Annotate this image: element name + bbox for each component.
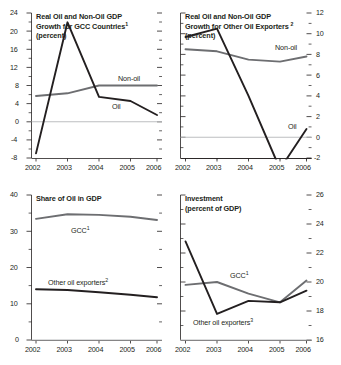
ytick-label: 26 (316, 190, 324, 199)
ytick-label: 4 (316, 91, 320, 100)
ytick-label: 12 (10, 63, 18, 72)
xtick-label: 2003 (57, 163, 72, 172)
ytick-label: 24 (316, 219, 324, 228)
series-label-other-oil-exporters: Other oil exporters2 (48, 278, 108, 287)
chart-panel-top-left: Real Oil and Non-Oil GDP Growth for GCC … (0, 0, 175, 182)
ytick-label: 2 (316, 112, 320, 121)
series-line-other-oil-exporters (36, 289, 157, 297)
ytick-label: 10 (316, 29, 324, 38)
series-label-other-oil-exporters: Other oil exporters3 (193, 318, 253, 327)
xtick-label: 2002 (25, 345, 40, 354)
series-label-non-oil: Non-oil (118, 74, 140, 83)
series-label-non-oil: Non-oil (275, 43, 297, 52)
xtick-label: 2004 (238, 163, 253, 172)
chart-panel-top-right: Real Oil and Non-Oil GDP Growth for Othe… (175, 0, 341, 182)
chart-panel-bottom-right: Investment (percent of GDP) (175, 182, 341, 365)
series-label-gcc: GCC1 (71, 226, 89, 235)
ytick-label: 24 (10, 8, 18, 17)
ytick-label: -8 (11, 153, 17, 162)
ytick-label: 0 (15, 335, 19, 344)
series-label-other-text: Other oil exporters (48, 278, 105, 287)
ytick-label: 20 (10, 27, 18, 36)
ytick-label: 6 (316, 71, 320, 80)
xtick-label: 2002 (175, 163, 190, 172)
series-label-gcc-superscript: 1 (87, 225, 90, 231)
xtick-label: 2005 (269, 345, 284, 354)
xtick-label: 2006 (146, 345, 161, 354)
xtick-label: 2006 (296, 163, 311, 172)
ytick-label: 18 (316, 306, 324, 315)
ytick-label: 30 (10, 227, 18, 236)
xtick-label: 2006 (146, 163, 161, 172)
ytick-label: 16 (10, 45, 18, 54)
series-label-oil: Oil (112, 102, 120, 111)
ytick-label: -4 (11, 135, 17, 144)
xtick-label: 2006 (296, 345, 311, 354)
xtick-label: 2004 (88, 163, 103, 172)
xtick-label: 2003 (206, 345, 221, 354)
xtick-label: 2004 (88, 345, 103, 354)
ytick-label: 16 (316, 335, 324, 344)
series-label-oil: Oil (288, 122, 296, 131)
xtick-label: 2002 (175, 345, 190, 354)
series-label-gcc-text: GCC (230, 271, 246, 280)
series-label-gcc: GCC1 (230, 271, 248, 280)
plot-area-bottom-left (0, 182, 175, 365)
ytick-label: 4 (15, 99, 19, 108)
ytick-label: 8 (316, 50, 320, 59)
ytick-label: 20 (10, 263, 18, 272)
series-line-gcc (36, 214, 157, 220)
ytick-label: 0 (316, 133, 320, 142)
xtick-label: 2005 (120, 345, 135, 354)
xtick-label: 2003 (206, 163, 221, 172)
ytick-label: 0 (15, 117, 19, 126)
ytick-label: -2 (314, 153, 320, 162)
xtick-label: 2004 (238, 345, 253, 354)
series-line-oil (36, 22, 157, 153)
series-label-gcc-superscript: 1 (246, 270, 249, 276)
xtick-label: 2003 (57, 345, 72, 354)
series-label-other-superscript: 3 (250, 317, 253, 323)
chart-panel-bottom-left: Share of Oil in GDP (0, 182, 175, 365)
ytick-label: 12 (316, 8, 324, 17)
ytick-label: 22 (316, 248, 324, 257)
series-label-other-text: Other oil exporters (193, 318, 250, 327)
ytick-label: 10 (10, 299, 18, 308)
series-label-other-superscript: 2 (105, 277, 108, 283)
plot-area-top-left (0, 0, 175, 182)
series-label-gcc-text: GCC (71, 226, 87, 235)
ytick-label: 40 (10, 190, 18, 199)
ytick-label: 8 (15, 81, 19, 90)
xtick-label: 2005 (269, 163, 284, 172)
xtick-label: 2005 (120, 163, 135, 172)
figure-panel-group: Real Oil and Non-Oil GDP Growth for GCC … (0, 0, 341, 365)
ytick-label: 20 (316, 277, 324, 286)
xtick-label: 2002 (25, 163, 40, 172)
